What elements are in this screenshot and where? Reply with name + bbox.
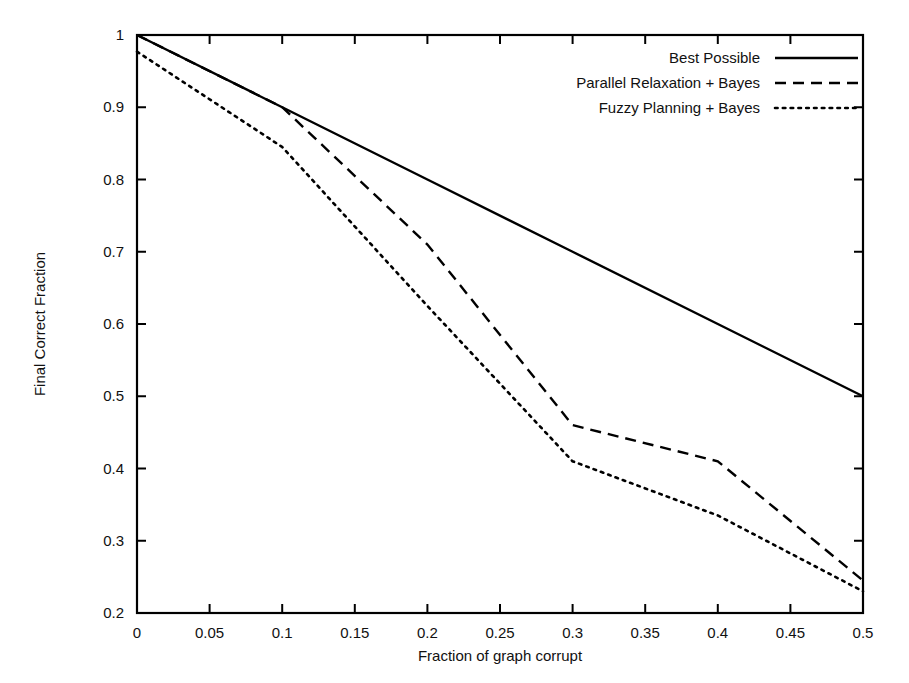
x-tick-label: 0.4 [707, 624, 728, 641]
legend-label: Fuzzy Planning + Bayes [599, 99, 760, 116]
x-tick-label: 0 [133, 624, 141, 641]
legend-label: Best Possible [669, 49, 760, 66]
y-tick-label: 0.8 [103, 171, 124, 188]
x-tick-label: 0.2 [417, 624, 438, 641]
x-tick-label: 0.25 [485, 624, 514, 641]
y-tick-label: 0.9 [103, 98, 124, 115]
x-tick-label: 0.1 [272, 624, 293, 641]
x-tick-label: 0.45 [776, 624, 805, 641]
chart-figure: 00.050.10.150.20.250.30.350.40.450.5 0.2… [0, 0, 909, 683]
x-axis-title: Fraction of graph corrupt [418, 647, 583, 664]
y-tick-label: 0.5 [103, 387, 124, 404]
x-tick-label: 0.3 [562, 624, 583, 641]
legend-label: Parallel Relaxation + Bayes [576, 74, 760, 91]
x-tick-label: 0.35 [631, 624, 660, 641]
y-tick-label: 0.3 [103, 532, 124, 549]
y-tick-label: 1 [116, 26, 124, 43]
x-tick-label: 0.05 [195, 624, 224, 641]
x-tick-label: 0.15 [340, 624, 369, 641]
y-tick-label: 0.6 [103, 315, 124, 332]
y-tick-label: 0.7 [103, 243, 124, 260]
line-chart: 00.050.10.150.20.250.30.350.40.450.5 0.2… [0, 0, 909, 683]
y-tick-label: 0.4 [103, 460, 124, 477]
y-tick-label: 0.2 [103, 604, 124, 621]
x-tick-label: 0.5 [853, 624, 874, 641]
y-axis-title: Final Correct Fraction [31, 252, 48, 396]
